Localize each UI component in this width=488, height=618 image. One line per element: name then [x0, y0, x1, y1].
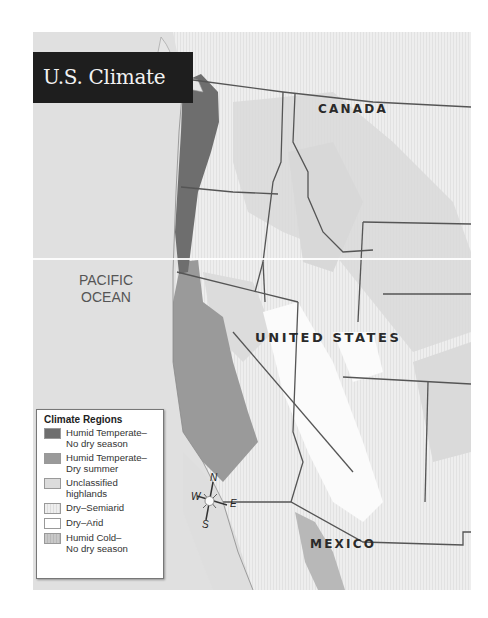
legend-item-unclassified-highlands: Unclassifiedhighlands	[44, 477, 163, 499]
label-united-states: UNITED STATES	[255, 330, 402, 345]
legend-item-dry-arid: Dry–Arid	[44, 517, 163, 529]
pacific-line2: OCEAN	[70, 289, 142, 306]
compass-e: E	[230, 498, 237, 509]
pacific-line1: PACIFIC	[70, 272, 142, 289]
label-canada: CANADA	[318, 102, 388, 116]
legend-label: Humid Cold–	[66, 532, 128, 543]
legend-item-humid-temperate-dry-summer: Humid Temperate–Dry summer	[44, 452, 163, 474]
swatch	[44, 503, 61, 514]
swatch	[44, 478, 61, 489]
scan-line	[0, 258, 488, 260]
legend-label: Unclassified	[66, 477, 118, 488]
legend-label: No dry season	[66, 543, 128, 554]
legend-title: Climate Regions	[44, 414, 163, 425]
legend-label: No dry season	[66, 438, 147, 449]
legend: Climate Regions Humid Temperate–No dry s…	[36, 409, 164, 579]
swatch	[44, 533, 61, 544]
legend-label: Dry–Arid	[66, 517, 103, 528]
compass-n: N	[210, 472, 217, 483]
legend-label: Dry summer	[66, 463, 147, 474]
compass-w: W	[191, 491, 200, 502]
legend-label: Humid Temperate–	[66, 427, 147, 438]
legend-label: highlands	[66, 488, 118, 499]
compass-rose: N E S W	[197, 474, 237, 534]
legend-label: Humid Temperate–	[66, 452, 147, 463]
swatch	[44, 518, 61, 529]
legend-item-humid-temperate-no-dry: Humid Temperate–No dry season	[44, 427, 163, 449]
swatch	[44, 453, 61, 464]
compass-s: S	[202, 519, 209, 530]
label-pacific-ocean: PACIFIC OCEAN	[70, 272, 142, 306]
map-title: U.S. Climate	[33, 52, 193, 103]
swatch	[44, 428, 61, 439]
label-mexico: MEXICO	[310, 537, 376, 551]
legend-item-humid-cold: Humid Cold–No dry season	[44, 532, 163, 554]
legend-item-dry-semiarid: Dry–Semiarid	[44, 502, 163, 514]
legend-label: Dry–Semiarid	[66, 502, 124, 513]
